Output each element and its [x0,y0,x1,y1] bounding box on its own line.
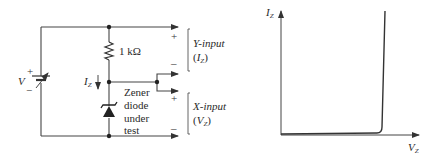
graph-x-axis-label: VZ [408,141,419,157]
source-minus-sign: − [26,85,32,96]
y-input-variable: (IZ) [193,51,208,67]
graph-axes [281,11,419,135]
y-input-var-subscript: Z [200,57,204,65]
x-axis-subscript: Z [415,147,419,155]
input-brackets [188,29,190,134]
zener-characteristic-curve [281,11,385,134]
y-input-minus: – [171,58,177,69]
graph-y-axis-label: IZ [266,6,274,22]
resistor-label: 1 kΩ [119,45,141,57]
current-subscript: Z [88,81,92,89]
y-axis-subscript: Z [270,12,274,20]
diode-label-line: diode [124,99,148,111]
y-input-label: Y-input [193,37,225,49]
y-input-plus: + [171,31,177,42]
diode-label-line: under [124,112,149,124]
x-axis-symbol: V [408,141,415,153]
x-input-variable: (VZ) [193,114,211,130]
diode-label-line: test [124,124,139,136]
diode-label-line: Zener [124,86,150,98]
x-input-var-subscript: Z [203,120,207,128]
source-plus-sign: + [27,66,33,77]
x-input-minus: – [171,123,177,134]
current-label: IZ [84,75,92,91]
diagram-canvas [0,0,439,159]
x-input-plus: + [171,93,177,104]
resistor-symbol [105,42,113,60]
source-voltage-label: V [18,75,25,87]
x-input-label: X-input [193,100,226,112]
